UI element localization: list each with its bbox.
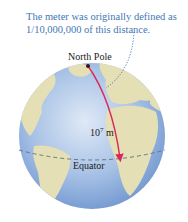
globe-diagram [0,0,188,222]
distance-label: 107 m [90,126,114,138]
north-pole-marker [86,64,90,68]
distance-base: 10 [90,127,100,138]
equator-label: Equator [73,160,105,171]
north-pole-label: North Pole [68,51,112,62]
distance-unit: m [104,127,114,138]
